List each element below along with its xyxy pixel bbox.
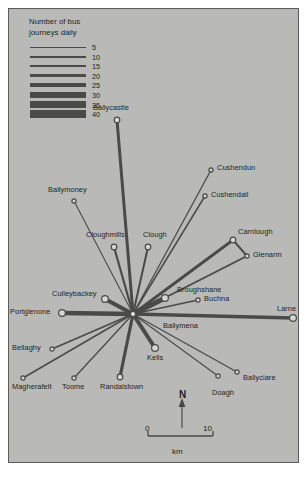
place-dot [102, 296, 109, 303]
legend-line-swatch [30, 56, 86, 58]
place-dot [245, 254, 249, 258]
place-dot [196, 298, 200, 302]
route-line [52, 314, 133, 349]
place-dot [209, 168, 213, 172]
place-dot [203, 194, 207, 198]
place-dot [111, 244, 117, 250]
place-label: Kells [147, 354, 163, 362]
place-label: Portglenone [10, 308, 50, 316]
place-dot [72, 376, 76, 380]
place-dot [50, 347, 54, 351]
legend-title: Number of bus journeys daily [29, 17, 80, 38]
place-label: Carnlough [238, 228, 273, 236]
place-dot [152, 345, 159, 352]
place-label: Larne [277, 305, 296, 313]
place-dot [216, 374, 220, 378]
legend-line-swatch [30, 83, 86, 87]
place-label: Cloughmills [86, 231, 125, 239]
place-label: Randalstown [100, 383, 143, 391]
place-label: Culleybackey [52, 290, 97, 298]
place-label: Broughshane [177, 286, 222, 294]
scale-min-label: 0 [145, 424, 149, 433]
place-dot [290, 315, 297, 322]
place-dot [72, 199, 76, 203]
place-dot [230, 237, 236, 243]
map-page: Number of bus journeys daily 51015202530… [0, 0, 307, 479]
place-dot [117, 374, 123, 380]
route-line [62, 313, 133, 314]
place-label: Toome [62, 383, 84, 391]
route-line [74, 314, 133, 378]
place-label: Ballymoney [48, 186, 87, 194]
bus-route-lines [23, 120, 293, 378]
place-dot [59, 310, 66, 317]
place-label: Doagh [212, 389, 234, 397]
place-label: Ballymena [163, 322, 198, 330]
place-label: Glenarm [253, 251, 282, 259]
place-label: Buchna [204, 295, 229, 303]
place-dot [162, 295, 169, 302]
scale-unit-label: km [172, 447, 183, 456]
hub-dot-ballymena [130, 311, 135, 316]
place-label: Cushendall [211, 191, 248, 199]
route-line [133, 314, 155, 348]
place-dot [235, 370, 239, 374]
place-dot [145, 244, 151, 250]
legend-line-swatch [30, 47, 86, 48]
north-letter-label: N [179, 389, 186, 400]
place-dot [21, 376, 25, 380]
place-markers [21, 117, 297, 380]
place-label: Ballyclare [243, 374, 276, 382]
north-arrow-icon [179, 398, 186, 428]
legend-line-swatch [30, 65, 86, 68]
place-label: Cushendun [217, 164, 255, 172]
legend-line-swatch [30, 110, 86, 117]
legend-line-swatch [30, 74, 86, 77]
place-label: Clough [143, 231, 167, 239]
place-label: Ballycastle [93, 104, 129, 112]
legend-line-swatch [30, 92, 86, 97]
place-label: Bellaghy [12, 344, 41, 352]
scale-max-label: 10 [203, 424, 212, 433]
route-line [120, 314, 133, 377]
place-label: Magherafelt [12, 383, 52, 391]
route-line [133, 314, 293, 318]
legend-line-swatch [30, 101, 86, 107]
